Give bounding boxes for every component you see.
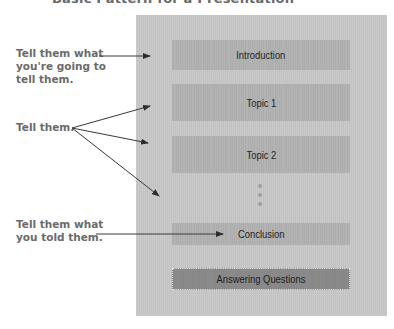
arrow-icon (72, 106, 150, 128)
arrow-icon (72, 128, 148, 143)
arrows (0, 0, 394, 329)
arrow-icon (72, 128, 159, 196)
